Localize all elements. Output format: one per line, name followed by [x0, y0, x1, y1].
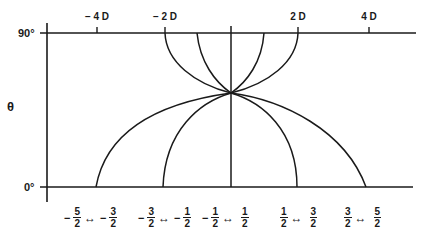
tick-label-minus-4d: − 4 D	[85, 11, 109, 22]
upper-curve-minus-1d	[197, 33, 231, 93]
sign: −	[202, 212, 208, 224]
sign: −	[138, 212, 144, 224]
tick-label-minus-2d: − 2 D	[153, 11, 177, 22]
stark-splitting-diagram: − 4 D − 2 D 2 D 4 D 90° θ 0°	[0, 0, 426, 238]
fraction: 12	[280, 206, 288, 229]
y-axis-label-theta: θ	[7, 99, 14, 114]
fraction: 52	[374, 206, 382, 229]
double-arrow-icon: ↔	[158, 211, 170, 225]
upper-curve-1d	[231, 33, 264, 93]
transition-label-2: − 32 ↔ − 12	[136, 206, 192, 229]
double-arrow-icon: ↔	[84, 211, 96, 225]
tick-label-2d: 2 D	[290, 11, 306, 22]
fraction: 12	[211, 206, 219, 229]
y-label-0deg: 0°	[24, 181, 35, 193]
transition-label-4: 12 ↔ 32	[275, 206, 318, 229]
y-label-90deg: 90°	[18, 27, 35, 39]
lower-curve-2d	[231, 93, 297, 187]
transition-label-5: 32 ↔ 52	[339, 206, 382, 229]
tick-label-4d: 4 D	[361, 11, 377, 22]
fraction: 32	[147, 206, 155, 229]
fraction: 32	[109, 206, 117, 229]
double-arrow-icon: ↔	[355, 211, 367, 225]
transition-label-1: − 52 ↔ − 32	[62, 206, 118, 229]
fraction: 12	[241, 206, 249, 229]
sign: −	[64, 212, 70, 224]
lower-curve-4d	[231, 93, 366, 187]
fraction: 12	[183, 206, 191, 229]
fraction: 32	[344, 206, 352, 229]
sign: −	[174, 212, 180, 224]
double-arrow-icon: ↔	[222, 211, 234, 225]
sign: −	[100, 212, 106, 224]
fraction: 32	[310, 206, 318, 229]
fraction: 52	[73, 206, 81, 229]
double-arrow-icon: ↔	[291, 211, 303, 225]
transition-label-3: − 12 ↔ 12	[200, 206, 250, 229]
